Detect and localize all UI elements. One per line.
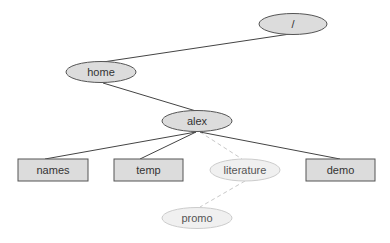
directory-tree-diagram: / home alex names temp literature demo p… [0,0,390,243]
edge-home-alex [103,83,196,111]
node-demo-label: demo [327,164,355,176]
node-names: names [18,159,88,181]
node-literature: literature [210,159,280,181]
node-promo-label: promo [181,212,212,224]
node-alex-label: alex [187,115,208,127]
edge-alex-temp [140,132,196,159]
node-temp-label: temp [136,164,160,176]
node-alex: alex [162,111,232,132]
node-promo: promo [162,208,232,229]
node-literature-label: literature [224,164,267,176]
node-home-label: home [87,66,115,78]
edge-literature-promo [200,181,245,207]
node-home: home [66,62,136,83]
edge-alex-names [45,132,196,159]
edge-root-home [103,34,290,62]
node-root: / [259,14,327,35]
node-names-label: names [36,164,70,176]
node-demo: demo [306,159,375,181]
node-temp: temp [114,159,183,181]
